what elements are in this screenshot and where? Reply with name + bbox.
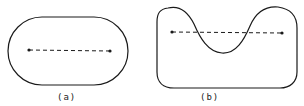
nonconvex-shape-b bbox=[157, 7, 297, 88]
diagram: (a) (b) bbox=[0, 0, 304, 106]
point-b2 bbox=[280, 31, 283, 34]
point-a2 bbox=[108, 49, 111, 52]
dashed-segment-b bbox=[172, 32, 282, 33]
dashed-segment-a bbox=[29, 50, 110, 51]
point-a1 bbox=[27, 48, 30, 51]
convex-shape-a bbox=[8, 17, 128, 85]
point-b1 bbox=[170, 30, 173, 33]
figure-canvas bbox=[0, 0, 304, 106]
caption-b: (b) bbox=[200, 92, 219, 102]
caption-a: (a) bbox=[57, 92, 76, 102]
